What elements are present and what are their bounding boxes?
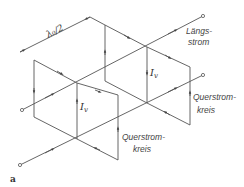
- current-label-left: Iv: [79, 101, 88, 114]
- transverse-loop-right: [90, 17, 190, 125]
- transverse-loop-right-label: Querstrom- kreis: [193, 92, 238, 115]
- dimension-label: λ₀/2: [43, 22, 65, 40]
- longitudinal-conductor-lower: [20, 75, 203, 165]
- current-label-right: Iv: [149, 67, 158, 80]
- figure-label: a: [10, 174, 16, 184]
- transverse-loop-lower-label: Querstrom- kreis: [122, 132, 167, 154]
- longitudinal-current-label: Längs- strom: [186, 26, 214, 47]
- terminals: [18, 14, 204, 166]
- current-loop-diagram: λ₀/2 Iv Iv Längs- strom Querstrom- kreis…: [0, 0, 244, 187]
